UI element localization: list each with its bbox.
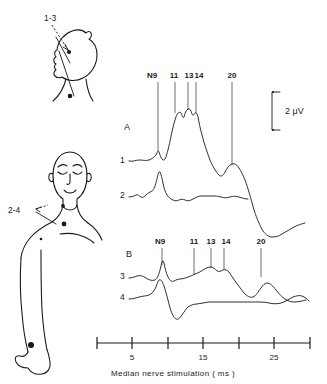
panel-a-label: A <box>124 122 130 132</box>
panel-a-trace-2 <box>129 172 248 201</box>
panel-b: N9 11 13 14 20 B 3 4 <box>120 237 309 319</box>
panel-b-trace-3 <box>129 261 306 302</box>
scalp-electrode-dot <box>67 50 71 54</box>
shoulder-electrode-dot <box>40 238 43 241</box>
axis-tick-label-25: 25 <box>270 353 279 362</box>
panel-b-peak-label-14: 14 <box>222 237 231 246</box>
panel-a-peak-label-n9: N9 <box>147 71 158 80</box>
panel-b-peak-label-13: 13 <box>207 237 216 246</box>
scale-bar-label: 2 μV <box>285 106 304 116</box>
panel-a: N9 11 13 14 20 A 1 2 <box>120 71 305 237</box>
body-shoulder-diagram: 2-4 <box>8 152 102 374</box>
axis-tick-label-5: 5 <box>130 353 135 362</box>
panel-b-markers <box>162 248 261 277</box>
sep-figure: 1-3 <box>0 0 327 384</box>
panel-a-markers <box>158 82 232 165</box>
panel-a-peak-label-20: 20 <box>228 71 237 80</box>
neck-electrode-dot-upper <box>61 204 65 208</box>
panel-b-trace-4 <box>129 280 309 320</box>
panel-a-trace-label-1: 1 <box>120 155 125 165</box>
axis-caption: Median nerve stimulation ( ms ) <box>111 369 235 378</box>
panel-a-peak-label-13: 13 <box>185 71 194 80</box>
x-axis: 5 15 25 Median nerve stimulation ( ms ) <box>97 337 310 378</box>
panel-b-peak-label-n9: N9 <box>155 237 166 246</box>
panel-b-peak-label-20: 20 <box>257 237 266 246</box>
panel-b-trace-label-4: 4 <box>120 292 125 302</box>
panel-a-trace-label-2: 2 <box>120 190 125 200</box>
neck-electrode-dot-lower <box>62 222 67 227</box>
panel-b-trace-label-3: 3 <box>120 271 125 281</box>
reference-electrode-dot <box>68 94 73 99</box>
wrist-stimulation-electrode-dot <box>28 342 34 348</box>
scale-bar: 2 μV <box>272 91 304 131</box>
axis-tick-label-15: 15 <box>199 353 208 362</box>
figure-canvas: 1-3 <box>0 0 327 384</box>
panel-b-label: B <box>126 249 132 259</box>
body-electrode-label: 2-4 <box>8 205 21 215</box>
panel-b-peak-label-11: 11 <box>190 237 199 246</box>
panel-a-peak-label-11: 11 <box>170 71 179 80</box>
panel-a-peak-label-14: 14 <box>195 71 204 80</box>
head-lateral-diagram: 1-3 <box>44 13 97 101</box>
panel-a-trace-1 <box>129 109 305 237</box>
head-electrode-label: 1-3 <box>44 13 57 23</box>
